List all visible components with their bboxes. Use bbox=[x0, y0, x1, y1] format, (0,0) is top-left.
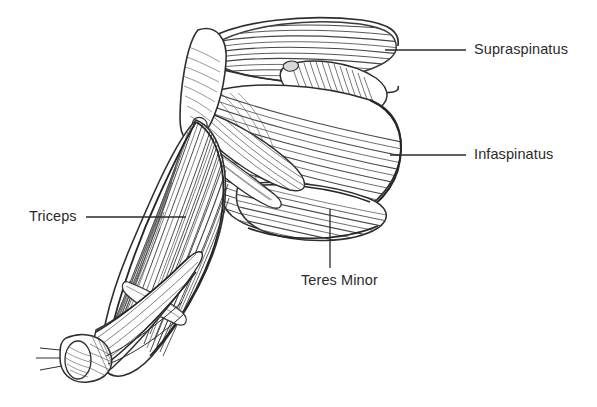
anatomy-illustration bbox=[0, 0, 597, 407]
label-teres-minor: Teres Minor bbox=[301, 272, 378, 288]
label-infaspinatus: Infaspinatus bbox=[474, 146, 553, 162]
label-supraspinatus: Supraspinatus bbox=[474, 41, 568, 57]
label-triceps: Triceps bbox=[29, 208, 77, 224]
anatomy-figure: Supraspinatus Infaspinatus Triceps Teres… bbox=[0, 0, 597, 407]
